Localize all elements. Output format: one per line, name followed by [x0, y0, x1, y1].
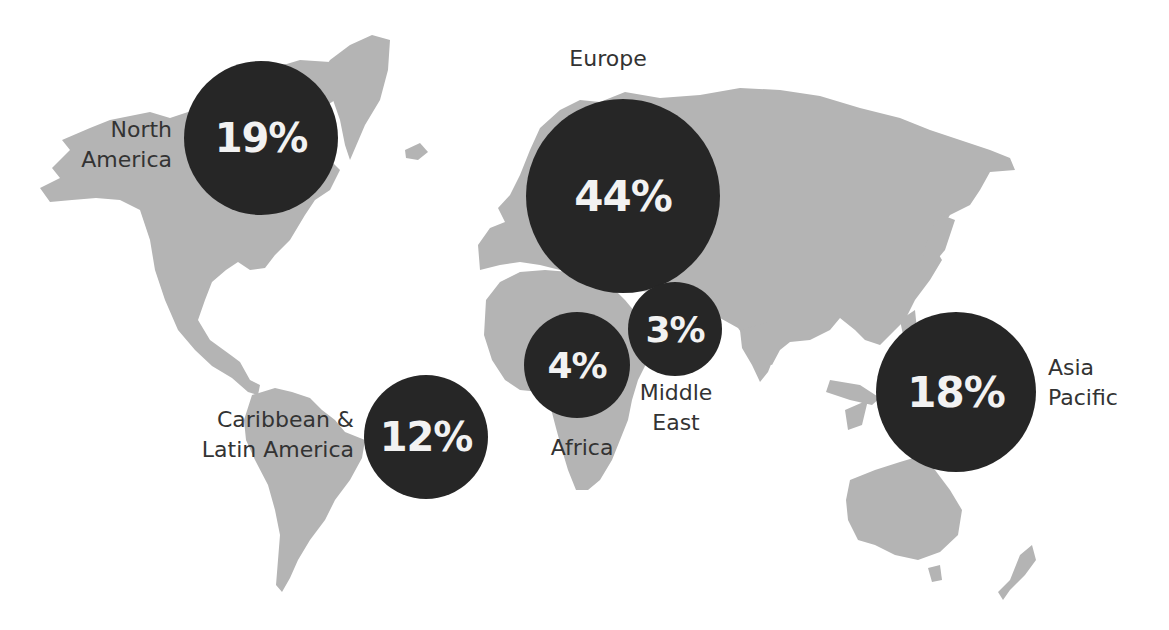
label-middle-east: Middle East [626, 378, 726, 438]
value-middle-east: 3% [645, 309, 704, 350]
world-map-infographic: 19% North America 44% Europe 3% Middle E… [0, 0, 1169, 630]
label-asia-pacific: Asia Pacific [1048, 353, 1118, 413]
label-europe: Europe [560, 44, 656, 74]
label-north-america: North America [81, 115, 172, 175]
value-europe: 44% [574, 172, 672, 221]
landmass-new-zealand [998, 545, 1036, 600]
label-latin-america: Caribbean & Latin America [202, 405, 354, 465]
label-africa: Africa [537, 433, 627, 463]
value-africa: 4% [547, 345, 606, 386]
bubble-asia-pacific: 18% [876, 312, 1036, 472]
bubble-africa: 4% [524, 312, 630, 418]
landmass-india [740, 322, 780, 382]
landmass-tasmania [928, 565, 942, 582]
landmass-australia [846, 456, 962, 560]
bubble-europe: 44% [526, 99, 720, 293]
value-north-america: 19% [215, 115, 308, 161]
bubble-north-america: 19% [184, 61, 338, 215]
bubble-middle-east: 3% [628, 282, 722, 376]
value-asia-pacific: 18% [907, 368, 1005, 417]
value-latin-america: 12% [380, 414, 473, 460]
landmass-iceland [405, 143, 428, 160]
bubble-latin-america: 12% [364, 375, 488, 499]
